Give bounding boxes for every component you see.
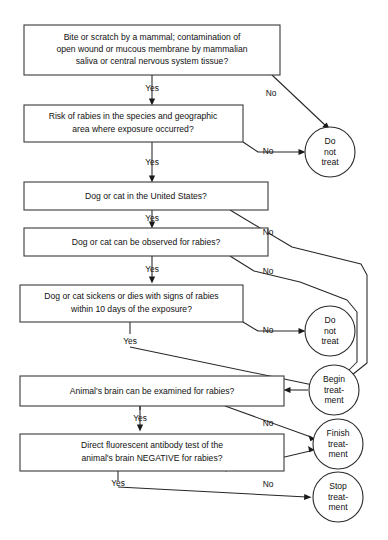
decision-1-line-1: Bite or scratch by a mammal; contaminati… — [64, 32, 241, 42]
terminal-3-line-1: Begin — [323, 374, 345, 384]
terminal-3-line-2: treat- — [324, 385, 344, 395]
terminal-4-line-1: Finish — [327, 428, 350, 438]
decision-3-line-1: Dog or cat in the United States? — [85, 191, 207, 201]
terminal-node-do-not-treat-2[interactable]: Do not treat — [305, 306, 355, 356]
edge-label-d7-yes: Yes — [111, 478, 125, 488]
edge-label-d2-yes: Yes — [145, 157, 159, 167]
terminal-node-finish-treatment[interactable]: Finish treat- ment — [313, 419, 363, 469]
terminal-nodes: Do not treat Do not treat Begin treat- m… — [305, 127, 363, 522]
terminal-1-line-1: Do — [325, 136, 336, 146]
edge-d1-no — [272, 75, 326, 126]
edge-label-d1-no: No — [266, 88, 277, 98]
edge-label-d4-no: No — [263, 266, 274, 276]
edge-label-d4-yes: Yes — [145, 264, 159, 274]
terminal-1-line-3: treat — [321, 157, 339, 167]
decision-5-line-1: Dog or cat sickens or dies with signs of… — [44, 291, 218, 301]
decision-node-3[interactable]: Dog or cat in the United States? — [24, 182, 268, 210]
decision-7-line-1: Direct fluorescent antibody test of the — [81, 440, 223, 450]
terminal-node-begin-treatment[interactable]: Begin treat- ment — [309, 365, 359, 415]
decision-2-line-2: area where exposure occurred? — [72, 124, 194, 134]
decision-7-line-2: animal's brain NEGATIVE for rabies? — [82, 453, 223, 463]
edge-d7-yes — [118, 487, 307, 497]
terminal-5-line-1: Stop — [329, 481, 347, 491]
decision-4-line-1: Dog or cat can be observed for rabies? — [72, 237, 221, 247]
flowchart-canvas: Bite or scratch by a mammal; contaminati… — [0, 0, 388, 540]
terminal-node-stop-treatment[interactable]: Stop treat- ment — [313, 472, 363, 522]
decision-node-2[interactable]: Risk of rabies in the species and geogra… — [24, 105, 243, 142]
decision-node-5[interactable]: Dog or cat sickens or dies with signs of… — [20, 285, 243, 322]
terminal-node-do-not-treat-1[interactable]: Do not treat — [305, 127, 355, 177]
arrowhead-d6-yes — [137, 425, 143, 432]
edge-label-d1-yes: Yes — [145, 83, 159, 93]
terminal-1-line-2: not — [324, 147, 337, 157]
decision-node-7[interactable]: Direct fluorescent antibody test of the … — [20, 434, 284, 471]
arrowhead-d7-yes — [304, 494, 312, 500]
edge-label-d3-no: No — [263, 227, 274, 237]
edge-label-d3-yes: Yes — [145, 213, 159, 223]
decision-6-line-1: Animal's brain can be examined for rabie… — [70, 386, 235, 396]
edge-label-d5-no: No — [263, 325, 274, 335]
decision-5-line-2: within 10 days of the exposure? — [70, 304, 192, 314]
edge-label-d2-no: No — [263, 146, 274, 156]
decision-1-line-2: open wound or mucous membrane by mammali… — [56, 44, 247, 54]
terminal-4-line-3: ment — [328, 449, 348, 459]
decision-2-line-1: Risk of rabies in the species and geogra… — [49, 111, 218, 121]
terminal-5-line-3: ment — [328, 502, 348, 512]
terminal-2-line-2: not — [324, 326, 337, 336]
terminal-2-line-3: treat — [321, 336, 339, 346]
edge-label-d6-no: No — [263, 418, 274, 428]
arrowhead-d1-yes — [149, 99, 155, 106]
decision-node-4[interactable]: Dog or cat can be observed for rabies? — [24, 228, 268, 256]
terminal-3-line-3: ment — [324, 395, 344, 405]
edge-label-d7-no: No — [263, 479, 274, 489]
decision-node-1[interactable]: Bite or scratch by a mammal; contaminati… — [24, 25, 280, 75]
terminal-5-line-2: treat- — [328, 492, 348, 502]
terminal-2-line-1: Do — [325, 315, 336, 325]
terminal-4-line-2: treat- — [328, 439, 348, 449]
edge-label-d5-yes: Yes — [123, 336, 137, 346]
decision-1-line-3: saliva or central nervous system tissue? — [76, 56, 229, 66]
edge-label-d6-yes: Yes — [133, 413, 147, 423]
arrowhead-d4-yes — [149, 277, 155, 284]
decision-node-6[interactable]: Animal's brain can be examined for rabie… — [20, 376, 284, 406]
arrowhead-d2-yes — [149, 176, 155, 183]
flowchart-container: Bite or scratch by a mammal; contaminati… — [0, 0, 388, 540]
